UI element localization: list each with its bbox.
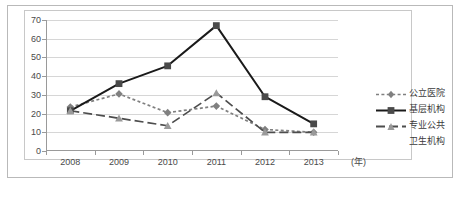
legend-label-public-health-institution-line2: 卫生机构 (409, 136, 456, 147)
series-line (70, 94, 313, 132)
x-tick-label: 2009 (109, 158, 129, 167)
y-tick-label: 0 (36, 147, 41, 156)
data-point-marker-diamond (115, 90, 123, 98)
series-3 (66, 89, 317, 135)
x-tick-label: 2010 (158, 158, 178, 167)
x-tick-mark (289, 151, 290, 155)
y-tick-label: 20 (31, 109, 41, 118)
y-tick-label: 70 (31, 16, 41, 25)
chart-legend: 公立医院 基层机构 专业公共 卫生机构 (376, 88, 456, 147)
legend-label-public-health-institution-line1: 专业公共 (409, 120, 445, 131)
data-point-marker-diamond (164, 109, 172, 117)
y-tick-label: 60 (31, 34, 41, 43)
x-tick-mark (192, 151, 193, 155)
legend-item-public-health-institution[interactable]: 专业公共 (376, 120, 456, 132)
series-1 (67, 90, 318, 136)
x-tick-mark (46, 151, 47, 155)
legend-item-public-hospital[interactable]: 公立医院 (376, 88, 456, 100)
x-tick-label: 2011 (207, 158, 226, 167)
data-point-marker-square (262, 93, 269, 100)
legend-label-primary-institution: 基层机构 (409, 104, 445, 115)
x-tick-mark (143, 151, 144, 155)
legend-swatch-solid-square-icon (376, 105, 406, 116)
x-tick-label: 2013 (304, 158, 324, 167)
y-tick-label: 50 (31, 53, 41, 62)
series-2 (67, 22, 317, 127)
data-point-marker-square (116, 80, 123, 87)
legend-item-primary-institution[interactable]: 基层机构 (376, 104, 456, 116)
x-axis-unit-label: (年) (351, 158, 366, 167)
x-tick-mark (95, 151, 96, 155)
legend-swatch-dotted-diamond-icon (376, 89, 406, 100)
data-point-marker-square (310, 120, 317, 127)
x-tick-mark (241, 151, 242, 155)
data-point-marker-square (213, 22, 220, 29)
data-point-marker-triangle (212, 89, 220, 96)
chart-plot-area: 010203040506070 200820092010201120122013… (46, 20, 338, 151)
series-layer (46, 20, 338, 151)
y-tick-label: 10 (31, 128, 41, 137)
chart-screenshot: 010203040506070 200820092010201120122013… (0, 0, 461, 197)
series-line (70, 93, 313, 132)
y-tick-label: 40 (31, 72, 41, 81)
x-tick-label: 2012 (255, 158, 275, 167)
legend-swatch-dashed-triangle-icon (376, 121, 406, 132)
x-tick-mark (338, 151, 339, 155)
data-point-marker-diamond (213, 102, 221, 110)
data-point-marker-square (164, 62, 171, 69)
y-tick-label: 30 (31, 90, 41, 99)
legend-label-public-hospital: 公立医院 (409, 88, 445, 99)
x-tick-label: 2008 (60, 158, 80, 167)
